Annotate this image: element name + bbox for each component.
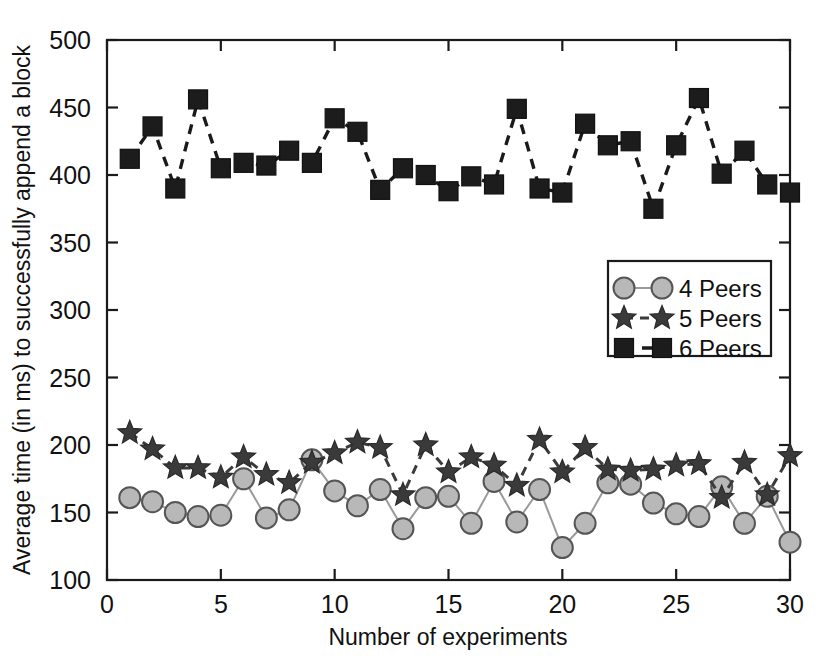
chart-figure: 100150200250300350400450500 051015202530… <box>0 0 816 666</box>
data-point-star <box>323 441 347 464</box>
data-point-circle <box>438 486 459 507</box>
data-point-square <box>689 89 708 108</box>
data-point-circle <box>552 537 573 558</box>
data-point-circle <box>643 493 664 514</box>
data-point-square <box>653 339 672 358</box>
data-point-circle <box>780 532 801 553</box>
data-point-square <box>644 199 663 218</box>
legend: 4 Peers5 Peers6 Peers <box>608 261 771 362</box>
x-tick-label: 25 <box>662 590 690 618</box>
data-point-star <box>254 462 278 485</box>
data-point-star <box>118 420 142 443</box>
y-tick-label: 350 <box>49 229 91 257</box>
legend-label-1: 4 Peers <box>679 275 762 302</box>
data-point-circle <box>188 506 209 527</box>
data-point-circle <box>652 278 673 299</box>
data-point-square <box>439 182 458 201</box>
series-5-peers <box>118 420 802 507</box>
y-tick-label: 150 <box>49 499 91 527</box>
data-point-square <box>781 183 800 202</box>
data-point-square <box>598 136 617 155</box>
data-point-square <box>348 122 367 141</box>
data-point-circle <box>165 502 186 523</box>
y-tick-label: 400 <box>49 161 91 189</box>
legend-label-3: 6 Peers <box>679 335 762 362</box>
data-point-circle <box>347 495 368 516</box>
data-point-square <box>166 179 185 198</box>
x-tick-label: 10 <box>321 590 349 618</box>
data-point-star <box>346 430 370 453</box>
data-point-square <box>325 109 344 128</box>
y-tick-label: 300 <box>49 296 91 324</box>
data-point-circle <box>461 513 482 534</box>
data-point-square <box>280 141 299 160</box>
data-point-square <box>257 156 276 175</box>
x-axis-title: Number of experiments <box>328 624 567 650</box>
data-point-square <box>211 159 230 178</box>
data-point-star <box>414 433 438 456</box>
data-point-square <box>712 164 731 183</box>
data-point-square <box>302 153 321 172</box>
series-line <box>130 98 790 209</box>
data-point-square <box>758 175 777 194</box>
data-point-square <box>576 114 595 133</box>
data-point-circle <box>734 513 755 534</box>
x-tick-label: 30 <box>776 590 804 618</box>
data-point-star <box>664 453 688 476</box>
data-point-circle <box>666 503 687 524</box>
data-point-square <box>667 136 686 155</box>
y-tick-label: 500 <box>49 26 91 54</box>
data-point-circle <box>256 507 277 528</box>
data-point-square <box>393 159 412 178</box>
data-point-circle <box>392 518 413 539</box>
data-point-star <box>528 427 552 450</box>
data-point-square <box>416 166 435 185</box>
data-point-star <box>186 455 210 478</box>
data-point-circle <box>119 487 140 508</box>
y-tick-label: 200 <box>49 431 91 459</box>
data-point-circle <box>575 513 596 534</box>
data-point-star <box>163 455 187 478</box>
data-point-circle <box>142 491 163 512</box>
data-point-square <box>485 175 504 194</box>
data-point-square <box>371 180 390 199</box>
data-point-circle <box>415 487 436 508</box>
data-point-circle <box>233 468 254 489</box>
y-tick-label: 250 <box>49 364 91 392</box>
data-point-star <box>733 450 757 473</box>
y-tick-label: 450 <box>49 94 91 122</box>
data-point-circle <box>614 278 635 299</box>
x-tick-label: 20 <box>548 590 576 618</box>
data-point-square <box>143 117 162 136</box>
data-point-star <box>642 457 666 480</box>
data-point-square <box>621 132 640 151</box>
y-tick-label: 100 <box>49 566 91 594</box>
data-point-square <box>462 167 481 186</box>
data-point-square <box>735 141 754 160</box>
data-point-star <box>391 482 415 505</box>
x-tick-label: 5 <box>214 590 228 618</box>
data-point-circle <box>324 480 345 501</box>
data-point-circle <box>688 506 709 527</box>
data-point-square <box>234 153 253 172</box>
data-point-square <box>189 90 208 109</box>
x-tick-label: 0 <box>100 590 114 618</box>
x-tick-label: 15 <box>435 590 463 618</box>
chart-canvas: 100150200250300350400450500 051015202530… <box>0 0 816 666</box>
data-point-square <box>120 149 139 168</box>
data-point-square <box>507 99 526 118</box>
data-point-circle <box>529 479 550 500</box>
series-6-peers <box>120 89 799 219</box>
data-point-circle <box>279 499 300 520</box>
data-point-star <box>687 451 711 474</box>
data-point-square <box>615 339 634 358</box>
y-axis-title: Average time (in ms) to successfully app… <box>9 44 35 575</box>
data-point-star <box>368 435 392 458</box>
data-point-circle <box>210 505 231 526</box>
data-point-circle <box>370 479 391 500</box>
data-point-star <box>550 460 574 483</box>
data-point-square <box>530 179 549 198</box>
data-point-square <box>553 183 572 202</box>
data-point-circle <box>506 511 527 532</box>
legend-label-2: 5 Peers <box>679 305 762 332</box>
